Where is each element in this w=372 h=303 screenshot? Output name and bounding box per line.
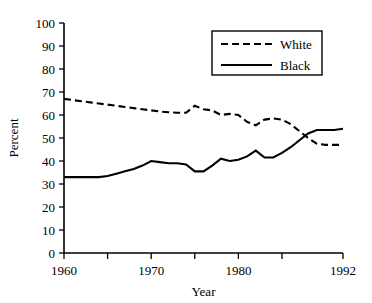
x-tick-label: 1980 bbox=[225, 263, 251, 278]
x-tick-label: 1960 bbox=[51, 263, 77, 278]
y-tick-label: 40 bbox=[42, 154, 55, 169]
y-tick-label: 100 bbox=[36, 16, 56, 31]
series-line-black bbox=[64, 129, 343, 177]
y-tick-label: 90 bbox=[42, 39, 55, 54]
y-tick-label: 80 bbox=[42, 62, 55, 77]
y-tick-label: 50 bbox=[42, 131, 55, 146]
x-tick-label: 1970 bbox=[138, 263, 164, 278]
y-tick-label: 70 bbox=[42, 85, 55, 100]
y-tick-label: 30 bbox=[42, 177, 55, 192]
chart-canvas: 01020304050607080901001960197019801992Ye… bbox=[0, 0, 372, 303]
legend-label-black: Black bbox=[280, 58, 311, 73]
y-tick-label: 20 bbox=[42, 200, 55, 215]
line-chart: 01020304050607080901001960197019801992Ye… bbox=[0, 0, 372, 303]
y-tick-label: 10 bbox=[42, 223, 55, 238]
y-tick-label: 60 bbox=[42, 108, 55, 123]
legend-label-white: White bbox=[280, 37, 312, 52]
y-axis-title: Percent bbox=[6, 118, 21, 157]
x-tick-label: 1992 bbox=[330, 263, 356, 278]
y-tick-label: 0 bbox=[49, 246, 56, 261]
x-axis-title: Year bbox=[192, 284, 217, 299]
